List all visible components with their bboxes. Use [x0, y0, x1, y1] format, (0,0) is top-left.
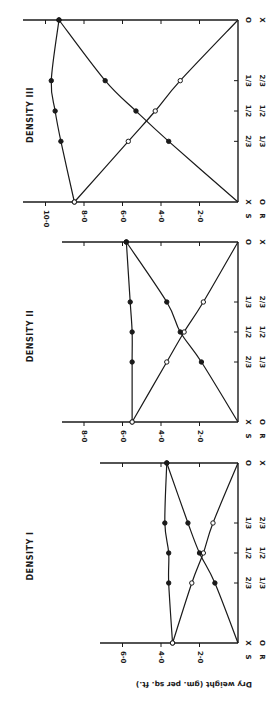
panel-title: DENSITY I — [26, 531, 35, 580]
data-point — [178, 78, 182, 82]
x-row-label: R — [258, 654, 266, 660]
data-point — [134, 109, 138, 113]
data-point — [190, 581, 194, 585]
data-point — [130, 330, 134, 334]
x-tick-label-s: 1/3 — [244, 517, 252, 529]
x-tick-label-r: 2/3 — [258, 296, 266, 308]
x-tick-label-s: 1/3 — [244, 296, 252, 308]
x-tick-label-r: X — [258, 17, 266, 23]
data-point — [211, 521, 215, 525]
y-tick-label: 2·0 — [196, 210, 204, 223]
data-point — [72, 200, 76, 204]
x-tick-label-s: 1/2 — [244, 547, 252, 559]
panel-title: DENSITY III — [26, 87, 35, 143]
y-tick-label: 4·0 — [157, 210, 165, 223]
data-point — [165, 360, 169, 364]
data-point — [178, 330, 182, 334]
data-point — [103, 78, 107, 82]
x-tick-label-r: 1/3 — [258, 577, 266, 589]
y-tick-label: 4·0 — [157, 651, 165, 664]
data-point — [57, 18, 61, 22]
data-point — [53, 109, 57, 113]
data-point — [59, 139, 63, 143]
x-tick-label-s: 2/3 — [244, 577, 252, 589]
x-tick-label-r: 2/3 — [258, 517, 266, 529]
data-point — [49, 78, 53, 82]
y-axis-label: Dry weight (gm. per sq. ft.) — [136, 680, 252, 689]
data-point — [186, 521, 190, 525]
y-tick-label: 4·0 — [157, 430, 165, 443]
x-tick-label-r: 1/3 — [258, 356, 266, 368]
chart-figure: 2·04·06·0X2/31/21/3OSO1/31/22/3XRDENSITY… — [0, 0, 280, 703]
x-tick-label-r: O — [258, 199, 266, 205]
x-row-label: S — [244, 433, 252, 438]
data-point — [167, 581, 171, 585]
x-row-label: R — [258, 433, 266, 439]
x-tick-label-s: 2/3 — [244, 135, 252, 147]
y-tick-label: 2·0 — [196, 651, 204, 664]
x-tick-label-s: X — [244, 419, 252, 425]
x-row-label: S — [244, 654, 252, 659]
data-point — [128, 300, 132, 304]
data-point — [213, 581, 217, 585]
data-point — [126, 139, 130, 143]
y-tick-label: 10·0 — [42, 210, 50, 227]
x-tick-label-r: X — [258, 460, 266, 466]
x-tick-label-r: 1/3 — [258, 135, 266, 147]
data-point — [165, 300, 169, 304]
data-point — [197, 551, 201, 555]
panel-density-3: 2·04·06·08·010·0X2/31/21/3OSO1/31/22/3XR… — [23, 17, 266, 227]
x-tick-label-s: O — [244, 17, 252, 23]
panel-density-1: 2·04·06·0X2/31/21/3OSO1/31/22/3XRDENSITY… — [26, 460, 267, 664]
y-tick-label: 8·0 — [80, 430, 88, 443]
x-tick-label-s: X — [244, 199, 252, 205]
x-tick-label-s: 1/3 — [244, 75, 252, 87]
data-point — [199, 360, 203, 364]
panel-title: DENSITY II — [26, 310, 35, 363]
x-tick-label-s: O — [244, 239, 252, 245]
x-tick-label-s: O — [244, 460, 252, 466]
y-tick-label: 6·0 — [119, 210, 127, 223]
x-tick-label-r: X — [258, 239, 266, 245]
data-point — [167, 139, 171, 143]
data-point — [124, 240, 128, 244]
data-point — [153, 109, 157, 113]
x-tick-label-s: 1/2 — [244, 105, 252, 117]
x-tick-label-s: 1/2 — [244, 326, 252, 338]
x-tick-label-s: X — [244, 640, 252, 646]
x-row-label: R — [258, 213, 266, 219]
data-point — [130, 420, 134, 424]
data-point — [170, 641, 174, 645]
data-point — [201, 300, 205, 304]
x-tick-label-r: 1/2 — [258, 105, 266, 117]
y-tick-label: 6·0 — [119, 651, 127, 664]
x-tick-label-r: 2/3 — [258, 75, 266, 87]
panel-density-2: 2·04·06·08·0X2/31/21/3OSO1/31/22/3XRDENS… — [26, 239, 267, 443]
data-point — [167, 551, 171, 555]
x-tick-label-s: 2/3 — [244, 356, 252, 368]
data-point — [163, 521, 167, 525]
data-point — [165, 461, 169, 465]
y-tick-label: 2·0 — [196, 430, 204, 443]
x-tick-label-r: O — [258, 419, 266, 425]
y-tick-label: 8·0 — [80, 210, 88, 223]
y-tick-label: 6·0 — [119, 430, 127, 443]
x-tick-label-r: 1/2 — [258, 547, 266, 559]
data-point — [130, 360, 134, 364]
x-tick-label-r: 1/2 — [258, 326, 266, 338]
x-tick-label-r: O — [258, 640, 266, 646]
x-row-label: S — [244, 213, 252, 218]
